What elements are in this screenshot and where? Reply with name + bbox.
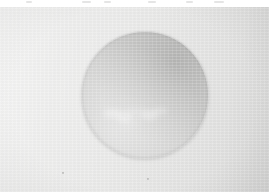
- sphere: [82, 32, 208, 158]
- cloud-blob: [103, 109, 121, 118]
- cloud-blob: [141, 110, 158, 120]
- cloud-blob: [152, 107, 168, 115]
- margin-speck: [186, 1, 193, 3]
- cloud-blob: [126, 108, 146, 116]
- margin-speck: [214, 1, 224, 3]
- cloud-blob: [119, 119, 141, 126]
- emulsion-grain-texture: [0, 7, 269, 192]
- margin-speck: [26, 1, 32, 3]
- cloud-blob: [116, 111, 132, 122]
- top-margin-strip: [0, 0, 269, 7]
- scan-line-texture: [0, 7, 269, 192]
- margin-speck: [82, 1, 91, 3]
- plate-illumination-ramp: [0, 7, 269, 192]
- dust-speck: [62, 172, 64, 174]
- margin-speck: [148, 1, 156, 3]
- vignette: [0, 7, 269, 192]
- sphere-body: [82, 32, 208, 158]
- dust-speck: [147, 178, 149, 180]
- sphere-highlight: [82, 32, 208, 158]
- plate-background: [0, 7, 269, 192]
- sphere-limb-shadow: [82, 32, 208, 158]
- sphere-edge: [81, 31, 209, 159]
- margin-speck: [104, 1, 111, 3]
- image-canvas: [0, 0, 269, 192]
